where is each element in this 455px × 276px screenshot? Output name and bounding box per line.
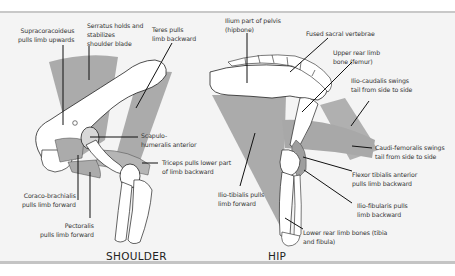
label-serratus: Serratus holds and stabilizes shoulder b…: [87, 21, 143, 48]
hip-title: HIP: [268, 250, 286, 262]
label-line: Lower rear limb bones (tibia: [303, 228, 387, 237]
label-line: pulls limb forward: [22, 200, 76, 209]
label-line: Coraco-brachialis: [22, 191, 76, 200]
label-scapulohumeralis: Scapulo- humeralis anterior: [141, 131, 196, 149]
label-line: Ilio-caudalis swings: [351, 76, 412, 85]
bone-tibia: [279, 172, 294, 238]
label-teres: Teres pulls limb backward: [152, 25, 196, 43]
label-line: Ilium part of pelvis: [225, 16, 281, 25]
label-line: Triceps pulls lower part: [162, 158, 231, 167]
label-line: limb backward: [152, 34, 196, 43]
label-line: Scapulo-: [141, 131, 196, 140]
muscle-coracobrachialis: [55, 138, 84, 162]
label-coracobrachialis: Coraco-brachialis pulls limb forward: [22, 191, 76, 209]
label-line: Flexor tibialis anterior: [352, 170, 417, 179]
muscle-pectoralis: [68, 160, 101, 178]
label-line: Fused sacral vertebrae: [306, 29, 375, 38]
label-line: Pectoralis: [40, 221, 94, 230]
label-tibiafibula: Lower rear limb bones (tibia and fibula): [303, 228, 387, 246]
label-flexortibialis: Flexor tibialis anterior pulls limb back…: [352, 170, 417, 188]
label-line: bone (femur): [333, 57, 380, 66]
label-sacral: Fused sacral vertebrae: [306, 29, 375, 38]
label-line: pulls limb backward: [352, 179, 417, 188]
label-line: and fibula): [303, 237, 387, 246]
label-iliotibialis: Ilio-tibialis pulls limb forward: [218, 190, 264, 208]
bone-fibula: [294, 175, 301, 238]
label-line: Teres pulls: [152, 25, 196, 34]
label-femur: Upper rear limb bone (femur): [333, 48, 380, 66]
label-ilium: Ilium part of pelvis (hipbone): [225, 16, 281, 34]
label-line: shoulder blade: [87, 39, 143, 48]
label-line: Supracoracoideus: [18, 26, 74, 35]
label-line: Ilio-tibialis pulls: [218, 190, 264, 199]
shoulder-title: SHOULDER: [106, 250, 167, 262]
label-line: tail from side to side: [351, 85, 412, 94]
label-line: Serratus holds and: [87, 21, 143, 30]
label-line: tail from side to side: [375, 152, 445, 161]
label-line: limb backward: [357, 210, 408, 219]
label-line: Ilio-fibularis pulls: [357, 201, 408, 210]
label-pectoralis: Pectoralis pulls limb forward: [40, 221, 94, 239]
label-line: Upper rear limb: [333, 48, 380, 57]
label-line: pulls limb upwards: [18, 35, 74, 44]
label-supracoracoideus: Supracoracoideus pulls limb upwards: [18, 26, 74, 44]
label-line: stabilizes: [87, 30, 143, 39]
label-caudifemoralis: Caudi-femoralis swings tail from side to…: [375, 143, 445, 161]
label-line: of limb backward: [162, 167, 231, 176]
label-line: Caudi-femoralis swings: [375, 143, 445, 152]
label-iliofibularis: Ilio-fibularis pulls limb backward: [357, 201, 408, 219]
label-triceps: Triceps pulls lower part of limb backwar…: [162, 158, 231, 176]
label-iliocaudalis: Ilio-caudalis swings tail from side to s…: [351, 76, 412, 94]
label-line: pulls limb forward: [40, 230, 94, 239]
label-line: limb forward: [218, 199, 264, 208]
label-line: (hipbone): [225, 25, 281, 34]
label-line: humeralis anterior: [141, 140, 196, 149]
